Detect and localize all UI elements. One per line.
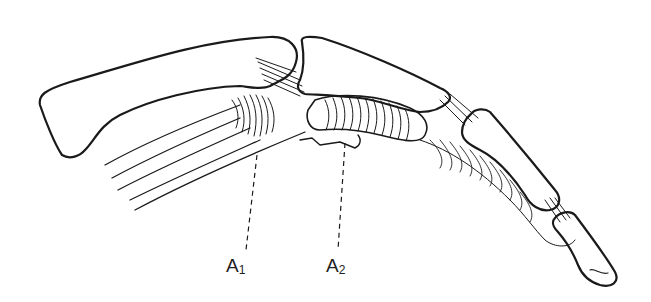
- label-a1-subscript: 1: [239, 263, 246, 277]
- middle-sheath-hatching: [430, 140, 532, 222]
- a1-leader-line: [246, 155, 257, 250]
- a2-leader-line: [338, 143, 345, 250]
- distal-phalanx: [553, 212, 616, 286]
- mcp-ligament: [256, 58, 304, 96]
- finger-anatomy-figure: A1 A2: [0, 0, 651, 302]
- label-a1-letter: A: [226, 255, 239, 276]
- metacarpal-bone: [40, 37, 297, 157]
- label-a2: A2: [326, 256, 345, 276]
- middle-phalanx: [462, 109, 559, 210]
- label-a2-subscript: 2: [339, 263, 346, 277]
- pip-ligament: [440, 94, 478, 125]
- label-a1: A1: [226, 256, 245, 276]
- label-a2-letter: A: [326, 255, 339, 276]
- flexor-tendons: [105, 105, 305, 210]
- a1-pulley-hatching: [232, 95, 274, 136]
